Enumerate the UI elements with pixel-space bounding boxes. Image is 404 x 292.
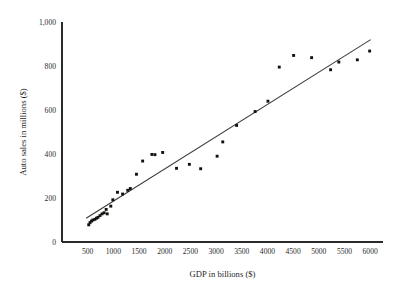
- data-point-marker: [129, 187, 132, 190]
- x-tick-label: 2500: [183, 247, 198, 256]
- data-point-marker: [121, 193, 124, 196]
- data-point-marker: [126, 189, 129, 192]
- y-tick-label: 200: [45, 194, 57, 203]
- data-point-marker: [292, 54, 295, 57]
- data-point-marker: [199, 167, 202, 170]
- y-tick-label: 600: [45, 106, 57, 115]
- data-point-marker: [356, 58, 359, 61]
- data-point-marker: [216, 155, 219, 158]
- data-point-marker: [135, 173, 138, 176]
- y-tick-label: 0: [52, 238, 56, 247]
- data-point-marker: [106, 212, 109, 215]
- data-point-marker: [116, 191, 119, 194]
- data-point-marker: [103, 211, 106, 214]
- data-point-marker: [154, 153, 157, 156]
- chart-canvas: 02004006008001,0005001000150020002500300…: [0, 0, 404, 292]
- data-point-marker: [254, 110, 257, 113]
- y-tick-label: 1,000: [39, 18, 56, 27]
- x-tick-label: 3000: [208, 247, 223, 256]
- y-tick-label: 800: [45, 62, 57, 71]
- data-point-marker: [150, 153, 153, 156]
- x-tick-label: 5000: [311, 247, 326, 256]
- x-tick-label: 5500: [337, 247, 352, 256]
- data-point-marker: [105, 208, 108, 211]
- data-point-marker: [109, 205, 112, 208]
- data-point-marker: [235, 124, 238, 127]
- x-tick-label: 2000: [157, 247, 172, 256]
- x-tick-label: 1000: [106, 247, 121, 256]
- x-tick-label: 4000: [260, 247, 275, 256]
- data-point-marker: [329, 68, 332, 71]
- data-point-marker: [141, 160, 144, 163]
- data-point-marker: [310, 56, 313, 59]
- x-tick-label: 500: [82, 247, 94, 256]
- data-point-marker: [337, 61, 340, 64]
- data-point-marker: [175, 167, 178, 170]
- x-tick-label: 6000: [363, 247, 378, 256]
- x-tick-label: 4500: [286, 247, 301, 256]
- data-point-marker: [111, 198, 114, 201]
- data-point-marker: [161, 151, 164, 154]
- y-axis-title: Auto sales in millions ($): [18, 88, 28, 176]
- data-point-marker: [368, 50, 371, 53]
- scatter-chart: 02004006008001,0005001000150020002500300…: [0, 0, 404, 292]
- data-point-marker: [221, 140, 224, 143]
- x-axis-title: GDP in billions ($): [190, 269, 256, 279]
- x-tick-label: 3500: [234, 247, 249, 256]
- data-point-marker: [188, 163, 191, 166]
- data-point-marker: [278, 66, 281, 69]
- y-tick-label: 400: [45, 150, 57, 159]
- data-point-marker: [267, 100, 270, 103]
- x-tick-label: 1500: [131, 247, 146, 256]
